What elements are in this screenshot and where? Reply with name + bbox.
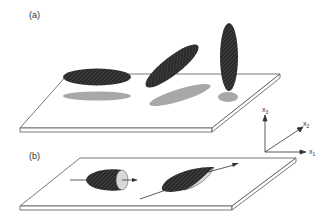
axis-x2-label: x2 (303, 120, 310, 129)
axis-x3-label: x3 (262, 106, 269, 115)
diagram-canvas: x3 x2 x1 (0, 0, 336, 224)
plate-b (20, 158, 296, 210)
shadow-vertical (218, 92, 238, 102)
particle-vertical (220, 23, 238, 91)
particle-flat (63, 69, 131, 86)
shadow-flat (63, 92, 131, 101)
coordinate-axes (263, 115, 306, 154)
axis-x1-label: x1 (309, 148, 316, 157)
